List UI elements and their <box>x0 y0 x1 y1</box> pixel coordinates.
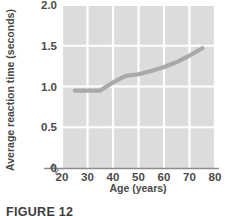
figure-caption: FIGURE 12 <box>6 205 73 216</box>
svg-text:1.5: 1.5 <box>41 40 58 52</box>
reaction-time-line-chart: 20304050607080 00.51.01.52.0 Age (years)… <box>0 0 232 216</box>
svg-text:2.0: 2.0 <box>41 0 57 11</box>
y-axis-title: Average reaction time (seconds) <box>4 9 16 171</box>
svg-text:0.5: 0.5 <box>41 121 58 133</box>
svg-text:0: 0 <box>51 162 57 174</box>
y-axis-tick-labels: 00.51.01.52.0 <box>41 0 58 174</box>
x-axis-title: Age (years) <box>109 182 166 194</box>
svg-text:30: 30 <box>81 171 94 183</box>
svg-text:80: 80 <box>209 171 222 183</box>
svg-text:70: 70 <box>183 171 196 183</box>
svg-text:20: 20 <box>56 171 69 183</box>
figure-container: 20304050607080 00.51.01.52.0 Age (years)… <box>0 0 232 216</box>
svg-text:1.0: 1.0 <box>41 81 57 93</box>
